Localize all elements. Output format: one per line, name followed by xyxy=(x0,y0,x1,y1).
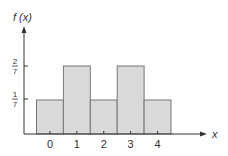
ytick1-numerator: 1 xyxy=(13,90,18,99)
bar-0 xyxy=(37,100,64,134)
x-tick-label: 0 xyxy=(47,138,53,150)
x-axis-label: x xyxy=(211,128,218,140)
bars xyxy=(37,66,172,134)
x-axis-arrow-icon xyxy=(200,132,207,137)
x-tick-label: 2 xyxy=(101,138,107,150)
x-tick-label: 3 xyxy=(128,138,134,150)
ytick2-denominator: 7 xyxy=(13,67,18,76)
bar-3 xyxy=(117,66,144,134)
x-tick-label: 1 xyxy=(74,138,80,150)
ytick2-numerator: 2 xyxy=(13,57,18,66)
y-axis-arrow-icon xyxy=(22,26,27,33)
bar-2 xyxy=(90,100,117,134)
x-tick-label: 4 xyxy=(154,138,160,150)
bar-4 xyxy=(144,100,171,134)
bar-1 xyxy=(63,66,90,134)
ytick1-denominator: 7 xyxy=(13,100,18,109)
probability-histogram: 01234 1 7 2 7 f (x) x xyxy=(0,0,228,156)
y-axis-label: f (x) xyxy=(13,11,32,23)
